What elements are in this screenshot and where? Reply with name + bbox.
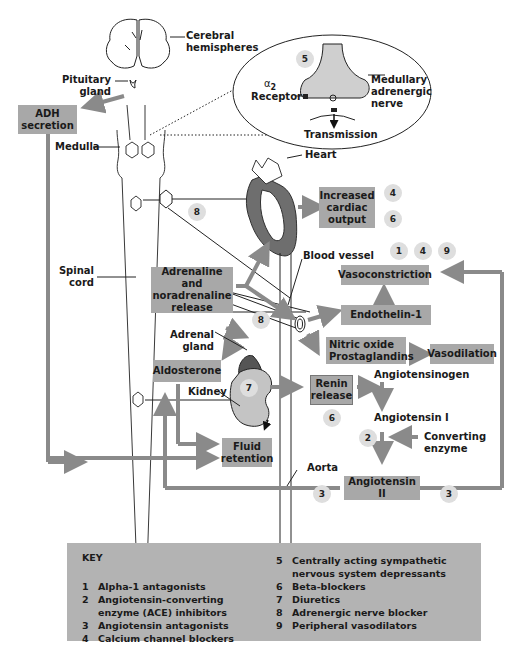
key-text: Adrenergic nerve blocker — [292, 606, 427, 619]
marker-4-vaso: 4 — [414, 242, 432, 260]
box-vasoconstriction: Vasoconstriction — [341, 265, 429, 285]
marker-5: 5 — [296, 50, 314, 68]
label-spinal-cord: Spinal cord — [50, 265, 94, 289]
marker-3-left: 3 — [313, 485, 331, 503]
label-alpha2-receptor: Receptor — [251, 91, 302, 103]
marker-6-cardiac: 6 — [384, 210, 402, 228]
marker-7-kidney: 7 — [240, 379, 258, 397]
marker-1-vaso: 1 — [390, 242, 408, 260]
label-blood-vessel: Blood vessel — [303, 250, 374, 262]
key-text: Centrally acting sympathetic nervous sys… — [292, 554, 447, 580]
key-text: Beta-blockers — [292, 580, 366, 593]
box-increased-cardiac-output: Increased cardiac output — [319, 187, 375, 228]
key-item-5: 5Centrally acting sympathetic nervous sy… — [276, 554, 447, 580]
label-heart: Heart — [305, 149, 337, 161]
box-renin-release: Renin release — [310, 375, 353, 405]
key-item-9: 9Peripheral vasodilators — [276, 619, 447, 632]
label-converting-enzyme: Converting enzyme — [424, 431, 486, 455]
label-medulla: Medulla — [55, 141, 100, 153]
antihypertensive-diagram: Cerebral hemispheres Pituitary gland Med… — [0, 0, 526, 649]
alpha-symbol: α — [264, 78, 271, 89]
box-fluid-retention: Fluid retention — [222, 438, 272, 467]
key-item-7: 7Diuretics — [276, 593, 447, 606]
label-transmission: Transmission — [304, 129, 378, 141]
key-item-1: 1Alpha-1 antagonists — [82, 580, 234, 593]
label-cerebral-hemispheres: Cerebral hemispheres — [186, 30, 258, 54]
key-number: 1 — [82, 580, 98, 593]
box-adh-secretion: ADH secretion — [18, 105, 77, 134]
key-text: Alpha-1 antagonists — [98, 580, 206, 593]
box-angiotensin-ii: Angiotensin II — [344, 476, 420, 500]
marker-8-nerve: 8 — [188, 203, 206, 221]
key-number: 8 — [276, 606, 292, 619]
key-column-left: 1Alpha-1 antagonists 2Angiotensin-conver… — [82, 580, 234, 645]
key-number: 4 — [82, 632, 98, 645]
key-item-6: 6Beta-blockers — [276, 580, 447, 593]
key-number: 2 — [82, 593, 98, 619]
label-angiotensin-i: Angiotensin I — [374, 412, 449, 424]
marker-3-right: 3 — [440, 485, 458, 503]
key-column-right: 5Centrally acting sympathetic nervous sy… — [276, 554, 447, 632]
kidney-icon — [230, 369, 271, 427]
key-item-3: 3Angiotensin antagonists — [82, 619, 234, 632]
key-item-4: 4Calcium channel blockers — [82, 632, 234, 645]
key-title: KEY — [82, 552, 103, 563]
heart-icon — [246, 158, 296, 256]
key-text: Calcium channel blockers — [98, 632, 234, 645]
box-adrenaline-release: Adrenaline and noradrenaline release — [151, 267, 233, 313]
box-nitric-oxide-prostaglandins: Nitric oxide Prostaglandins — [326, 337, 406, 364]
key-text: Peripheral vasodilators — [292, 619, 417, 632]
marker-4-cardiac: 4 — [384, 184, 402, 202]
key-number: 5 — [276, 554, 292, 580]
label-aorta: Aorta — [307, 462, 338, 474]
ganglion-icon — [160, 190, 172, 208]
label-pituitary-gland: Pituitary gland — [60, 74, 111, 98]
marker-6-renin: 6 — [323, 409, 341, 427]
box-endothelin-1: Endothelin-1 — [341, 305, 431, 325]
marker-9-vaso: 9 — [438, 242, 456, 260]
key-panel: KEY 1Alpha-1 antagonists 2Angiotensin-co… — [67, 543, 481, 641]
label-adrenal-gland: Adrenal gland — [170, 329, 214, 353]
marker-8-adrenal: 8 — [252, 311, 270, 329]
key-text: Angiotensin-converting enzyme (ACE) inhi… — [98, 593, 227, 619]
key-number: 6 — [276, 580, 292, 593]
box-vasodilation: Vasodilation — [430, 344, 494, 364]
box-aldosterone: Aldosterone — [153, 360, 221, 382]
marker-2-ace: 2 — [359, 429, 377, 447]
label-angiotensinogen: Angiotensinogen — [374, 369, 469, 381]
label-medullary-nerve: Medullary adrenergic nerve — [371, 74, 432, 110]
brain-icon — [106, 19, 169, 68]
label-kidney: Kidney — [188, 386, 227, 398]
pituitary-icon — [130, 80, 136, 88]
key-number: 3 — [82, 619, 98, 632]
spinal-cord-icon — [117, 105, 165, 604]
key-item-2: 2Angiotensin-converting enzyme (ACE) inh… — [82, 593, 234, 619]
key-number: 9 — [276, 619, 292, 632]
key-item-8: 8Adrenergic nerve blocker — [276, 606, 447, 619]
key-text: Diuretics — [292, 593, 340, 606]
key-text: Angiotensin antagonists — [98, 619, 229, 632]
key-number: 7 — [276, 593, 292, 606]
